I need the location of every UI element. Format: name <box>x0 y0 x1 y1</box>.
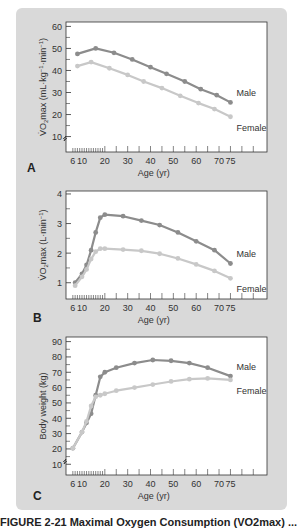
data-point-female <box>102 246 107 251</box>
data-point-male <box>169 358 174 363</box>
data-point-male <box>212 248 217 253</box>
data-point-female <box>228 378 233 383</box>
y-tick-label: 10 <box>52 460 62 470</box>
x-tick-label: 30 <box>123 479 133 489</box>
x-tick-label: 60 <box>191 303 201 313</box>
x-tick-label: 50 <box>168 479 178 489</box>
data-point-male <box>114 365 119 370</box>
x-tick-label: 40 <box>146 479 156 489</box>
x-tick-label: 50 <box>168 303 178 313</box>
data-point-female <box>80 430 85 435</box>
x-tick-label: 6 <box>70 479 75 489</box>
legend-female: Female <box>236 386 266 396</box>
data-point-female <box>178 93 183 98</box>
data-point-female <box>228 114 233 119</box>
data-point-female <box>169 379 174 384</box>
x-tick-label: 75 <box>225 156 235 166</box>
x-tick-label: 6 <box>70 156 75 166</box>
x-tick-label: 40 <box>146 303 156 313</box>
data-point-female <box>89 60 94 65</box>
data-point-male <box>89 248 94 253</box>
x-tick-label: 75 <box>225 479 235 489</box>
data-point-male <box>205 365 210 370</box>
legend-female: Female <box>236 123 266 133</box>
panel-label: B <box>33 311 42 325</box>
data-point-male <box>75 52 80 57</box>
data-point-male <box>214 93 219 98</box>
y-tick-label: 40 <box>52 66 62 76</box>
y-tick-label: 40 <box>52 414 62 424</box>
x-tick-label: 70 <box>214 156 224 166</box>
y-axis-label: V̇O2max (mL·kg−1·min−1) <box>38 38 49 136</box>
data-point-male <box>187 361 192 366</box>
x-axis-label: Age (yr) <box>138 491 170 501</box>
plot-area <box>66 191 267 299</box>
x-tick-label: 60 <box>191 479 201 489</box>
data-point-female <box>89 404 94 409</box>
y-axis-label: Body weight (kg) <box>38 372 48 439</box>
data-point-male <box>102 370 107 375</box>
data-point-female <box>84 267 89 272</box>
data-point-female <box>160 86 165 91</box>
x-tick-label: 10 <box>77 303 87 313</box>
data-point-female <box>157 251 162 256</box>
data-point-female <box>80 274 85 279</box>
data-point-female <box>141 79 146 84</box>
x-tick-label: 30 <box>123 303 133 313</box>
data-point-male <box>102 212 107 217</box>
panel-label: C <box>33 489 42 503</box>
panel-label: A <box>27 161 36 175</box>
data-point-female <box>139 248 144 253</box>
y-axis-label: V̇O2max (L·min−1) <box>38 209 49 280</box>
x-tick-label: 10 <box>77 479 87 489</box>
data-point-male <box>93 46 98 51</box>
data-point-male <box>130 57 135 62</box>
data-point-male <box>198 87 203 92</box>
y-tick-label: 70 <box>52 368 62 378</box>
data-point-male <box>93 230 98 235</box>
figure-caption: FIGURE 2-21 Maximal Oxygen Consumption (… <box>0 516 299 530</box>
y-tick-label: 4 <box>57 189 62 199</box>
x-tick-label: 30 <box>123 156 133 166</box>
x-tick-label: 20 <box>100 479 110 489</box>
chart-panel-b: 123461020304050607075Age (yr)V̇O2max (L·… <box>33 189 267 325</box>
y-tick-label: 90 <box>52 337 62 347</box>
data-point-female <box>89 257 94 262</box>
data-point-female <box>121 247 126 252</box>
data-point-male <box>228 100 233 105</box>
y-tick-label: 30 <box>52 88 62 98</box>
chart-panel-a: 10203040506061020304050607075Age (yr)V̇O… <box>27 22 267 178</box>
y-tick-label: 80 <box>52 352 62 362</box>
data-point-male <box>194 239 199 244</box>
y-tick-label: 10 <box>52 132 62 142</box>
legend-male: Male <box>236 88 256 98</box>
y-tick-label: 50 <box>52 44 62 54</box>
data-point-female <box>187 377 192 382</box>
data-point-female <box>196 101 201 106</box>
y-tick-label: 50 <box>52 398 62 408</box>
plot-area <box>66 337 267 475</box>
legend-female: Female <box>236 284 266 294</box>
x-tick-label: 50 <box>168 156 178 166</box>
y-tick-label: 2 <box>57 249 62 259</box>
data-point-female <box>212 268 217 273</box>
y-tick-label: 3 <box>57 219 62 229</box>
x-tick-label: 10 <box>77 156 87 166</box>
data-point-female <box>70 446 75 451</box>
data-point-female <box>194 262 199 267</box>
legend-male: Male <box>236 249 256 259</box>
data-point-female <box>228 276 233 281</box>
data-point-male <box>112 50 117 55</box>
x-axis-label: Age (yr) <box>138 315 170 325</box>
data-point-male <box>228 261 233 266</box>
data-point-female <box>84 419 89 424</box>
data-point-male <box>176 230 181 235</box>
y-tick-label: 60 <box>52 22 62 32</box>
x-axis-label: Age (yr) <box>138 168 170 178</box>
legend-male: Male <box>236 362 256 372</box>
x-tick-label: 20 <box>100 156 110 166</box>
data-point-male <box>121 214 126 219</box>
chart-panel-c: 10203040506070809061020304050607075Age (… <box>33 337 267 503</box>
y-tick-label: 20 <box>52 444 62 454</box>
data-point-male <box>150 358 155 363</box>
